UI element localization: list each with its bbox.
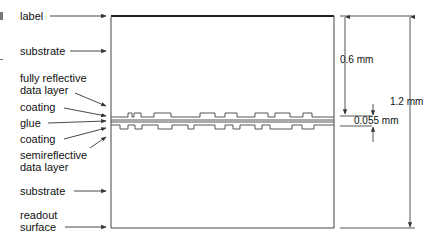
fully-reflective-layer <box>111 113 334 117</box>
arrow-coating-top <box>64 108 106 116</box>
disc-cross-section <box>0 0 438 240</box>
arrow-semireflective <box>90 137 106 148</box>
arrow-fully-reflective <box>75 93 106 106</box>
semireflective-layer <box>111 125 334 129</box>
arrow-coating-bottom <box>64 128 106 139</box>
arrow-glue <box>48 121 106 123</box>
